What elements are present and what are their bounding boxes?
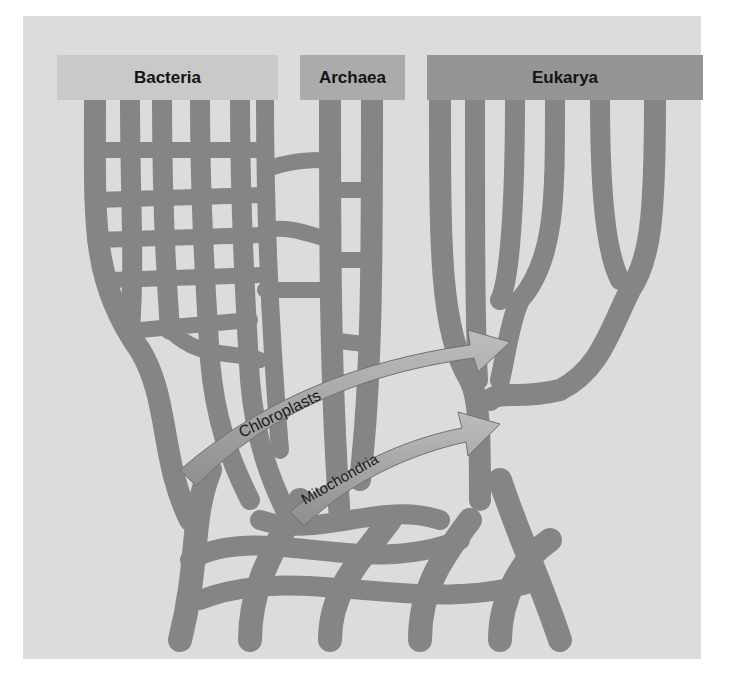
tree-of-life-network: Chloroplasts Mitochondria <box>0 0 740 679</box>
domain-label-text: Bacteria <box>134 68 201 88</box>
domain-label-text: Eukarya <box>532 68 598 88</box>
domain-label-text: Archaea <box>319 68 386 88</box>
domain-label-archaea: Archaea <box>300 55 405 100</box>
domain-label-eukarya: Eukarya <box>427 55 703 100</box>
domain-label-bacteria: Bacteria <box>57 55 278 100</box>
